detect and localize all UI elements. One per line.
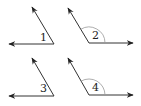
angle-label: 2 bbox=[92, 29, 99, 42]
ray-arrow-b bbox=[68, 58, 89, 95]
angle-diagram: 1234 bbox=[0, 0, 141, 106]
angle-4: 4 bbox=[68, 58, 133, 95]
angle-1: 1 bbox=[9, 7, 54, 44]
ray-arrow-b bbox=[68, 8, 89, 43]
angle-label: 1 bbox=[40, 31, 47, 44]
angle-label: 3 bbox=[40, 82, 47, 95]
angles-svg: 1234 bbox=[0, 0, 141, 106]
angle-3: 3 bbox=[9, 58, 54, 96]
angle-2: 2 bbox=[68, 8, 133, 43]
angle-label: 4 bbox=[92, 81, 99, 94]
